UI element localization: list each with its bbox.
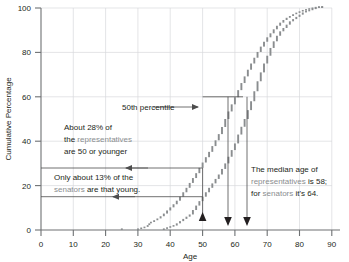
y-tick-100: 100 [18,4,32,13]
down-arrow-age-58 [224,217,232,226]
data-point [176,223,178,225]
data-point [270,48,272,56]
data-point [121,228,123,230]
data-point [150,222,152,224]
data-point [260,47,262,52]
data-point [182,192,184,196]
anno-med-line2-b: is 58; [306,177,327,186]
data-point [166,227,168,229]
data-point [148,223,150,225]
data-point [315,8,317,10]
data-point [266,56,268,64]
data-point [273,29,275,33]
data-point [189,183,191,188]
anno-med-line1: The median age of [251,165,318,174]
data-point [266,37,268,41]
data-point [240,127,242,135]
data-point [282,20,284,23]
data-point [192,210,194,214]
data-point [231,150,233,157]
data-point [186,188,188,192]
x-tick-30: 30 [133,240,142,249]
y-tick-20: 20 [22,182,31,191]
anno-med-line2-a: representatives [251,177,306,186]
annotation-50th-percentile: 50th percentile [122,103,175,112]
data-point [299,11,301,13]
anno-rep-line2-a: the [64,135,77,144]
data-point [189,214,191,216]
data-point [250,64,252,70]
data-point [302,12,304,14]
data-point [163,228,165,230]
data-point [286,18,288,20]
x-tick-90: 90 [327,240,336,249]
chart-plot-area: 100 80 60 40 20 0 0 10 20 30 40 50 60 70… [0,0,349,262]
annotation-median-age: The median age of representatives is 58;… [251,165,327,198]
data-point [273,41,275,48]
data-point [237,90,239,97]
data-point [202,163,204,168]
data-point [282,28,284,31]
data-point [198,201,200,205]
anno-med-line2: representatives is 58; [251,177,327,186]
y-tick-40: 40 [22,137,31,146]
data-point [321,6,323,8]
data-point [215,140,217,146]
anno-med-line3-c: it's 64. [293,189,318,198]
y-tick-labels: 100 80 60 40 20 0 [18,4,32,235]
data-point [166,210,168,213]
data-point [286,25,288,28]
cumulative-percentage-chart: 100 80 60 40 20 0 0 10 20 30 40 50 60 70… [0,0,349,262]
data-point [218,175,220,179]
data-point [179,221,181,223]
x-tick-labels: 0 10 20 30 40 50 60 70 80 90 [39,240,337,249]
data-point [182,219,184,221]
data-point [195,206,197,210]
anno-med-line3: for senators it's 64. [251,189,318,198]
data-point [292,19,294,21]
data-point [305,9,307,11]
data-point [257,81,259,91]
data-point [221,169,223,175]
x-tick-70: 70 [263,240,272,249]
data-point [173,204,175,207]
data-point [257,52,259,58]
x-axis-title: Age [183,252,198,261]
data-point [308,10,310,12]
data-point [302,10,304,12]
data-point [176,201,178,205]
up-arrow-age-50 [199,212,207,221]
anno-med-line3-a: for [251,189,263,198]
data-point [253,91,255,101]
y-tick-80: 80 [22,48,31,57]
data-point [263,42,265,47]
data-point [289,16,291,18]
y-axis-title: Cumulative Percentage [4,77,13,161]
data-point [208,152,210,157]
data-point [308,8,310,10]
data-point [156,218,158,220]
data-point [169,226,171,228]
anno-med-line3-b: senators [263,189,294,198]
data-point [169,207,171,210]
data-point [276,36,278,42]
x-axis-ticks [41,230,332,236]
data-point [279,31,281,35]
data-point [318,6,320,8]
y-axis-ticks [35,8,41,230]
data-point [260,72,262,81]
data-point [153,220,155,222]
y-tick-0: 0 [27,226,32,235]
data-point [244,119,246,127]
data-point [221,127,223,134]
data-point [244,76,246,83]
data-point [218,134,220,140]
data-point [299,15,301,17]
data-point [234,143,236,150]
data-point [224,119,226,127]
x-tick-40: 40 [166,240,175,249]
data-point [205,192,207,196]
data-point [198,168,200,173]
x-tick-10: 10 [69,240,78,249]
data-point [163,214,165,217]
